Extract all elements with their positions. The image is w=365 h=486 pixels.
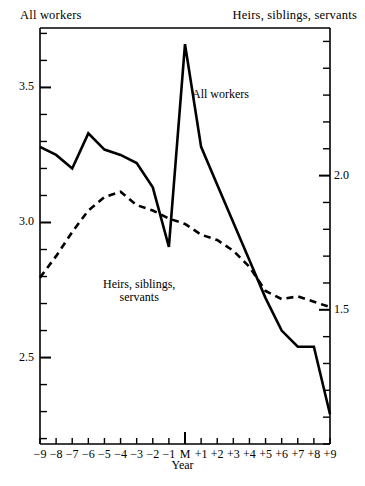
right-axis-ticks xyxy=(319,41,330,444)
right-tick-label: 1.5 xyxy=(334,302,349,317)
annotation-heirs-line2: servants xyxy=(120,290,159,304)
series-all-workers-line xyxy=(40,44,330,414)
series-heirs-siblings-servants-line xyxy=(40,192,330,307)
annotation-heirs-siblings-servants: Heirs, siblings, servants xyxy=(103,278,175,305)
x-axis-title: Year xyxy=(0,458,365,473)
chart-figure: All workers Heirs, siblings, servants 2.… xyxy=(0,0,365,486)
chart-canvas xyxy=(0,0,365,486)
annotation-heirs-line1: Heirs, siblings, xyxy=(103,277,175,291)
x-axis-ticks xyxy=(40,432,330,444)
left-tick-label: 3.0 xyxy=(2,214,34,229)
plot-frame xyxy=(40,28,330,444)
left-axis-ticks xyxy=(40,33,51,438)
right-tick-label: 2.0 xyxy=(334,168,349,183)
left-tick-label: 3.5 xyxy=(2,79,34,94)
left-tick-label: 2.5 xyxy=(2,350,34,365)
annotation-all-workers: All workers xyxy=(192,88,249,101)
